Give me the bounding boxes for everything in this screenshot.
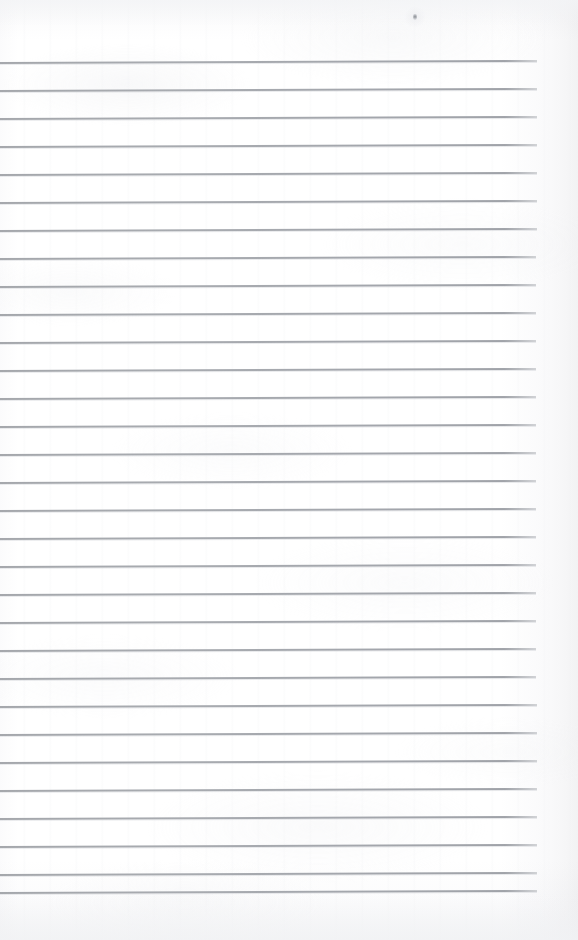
dust-speck <box>413 14 417 20</box>
scanned-page <box>0 0 578 940</box>
paper-background <box>0 0 578 940</box>
